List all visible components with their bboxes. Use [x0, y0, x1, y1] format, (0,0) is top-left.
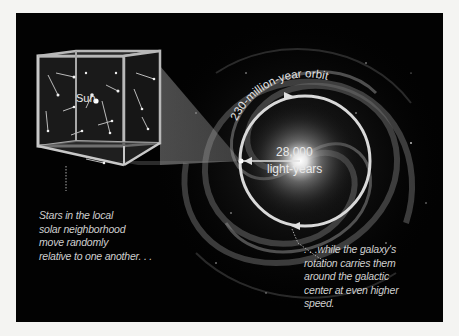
caption-line: around the galactic	[304, 270, 439, 284]
caption-line: solar neighborhood	[39, 223, 179, 237]
caption-line: relative to one another. . .	[39, 250, 179, 264]
caption-line: move randomly	[39, 236, 179, 250]
galaxy-illustration: 230-million-year orbit Sun 28,000 light-…	[16, 13, 443, 322]
caption-line: speed.	[304, 297, 439, 311]
sun-label: Sun	[76, 92, 96, 104]
caption-line: Stars in the local	[39, 209, 179, 223]
caption-galactic-rotation: . . .while the galaxy's rotation carries…	[304, 243, 439, 311]
caption-line: rotation carries them	[304, 257, 439, 271]
caption-line: . . .while the galaxy's	[304, 243, 439, 257]
distance-value: 28,000	[276, 145, 313, 159]
distance-unit: light-years	[267, 162, 322, 176]
caption-local-motion: Stars in the local solar neighborhood mo…	[39, 209, 179, 263]
caption-line: center at even higher	[304, 284, 439, 298]
